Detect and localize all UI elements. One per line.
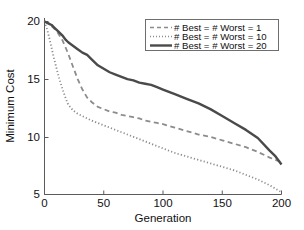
y-tick-label-15: 15: [27, 73, 40, 85]
chart-figure: 5 10 15 20 0 50 100 150 200 Generation M…: [0, 0, 304, 230]
x-tick-label-150: 150: [213, 197, 232, 209]
x-tick-label-50: 50: [97, 197, 110, 209]
line-chart: 5 10 15 20 0 50 100 150 200 Generation M…: [0, 0, 304, 230]
y-axis-title: Minimum Cost: [4, 68, 16, 142]
x-tick-label-100: 100: [153, 197, 172, 209]
legend-label-20: # Best = # Worst = 20: [174, 40, 267, 51]
x-axis-title: Generation: [135, 212, 192, 224]
y-tick-label-5: 5: [34, 188, 40, 200]
legend: # Best = # Worst = 1 # Best = # Worst = …: [146, 20, 279, 52]
x-tick-label-0: 0: [41, 197, 47, 209]
x-tick-label-200: 200: [272, 197, 291, 209]
y-tick-label-10: 10: [27, 131, 40, 143]
y-tick-label-20: 20: [27, 15, 40, 27]
